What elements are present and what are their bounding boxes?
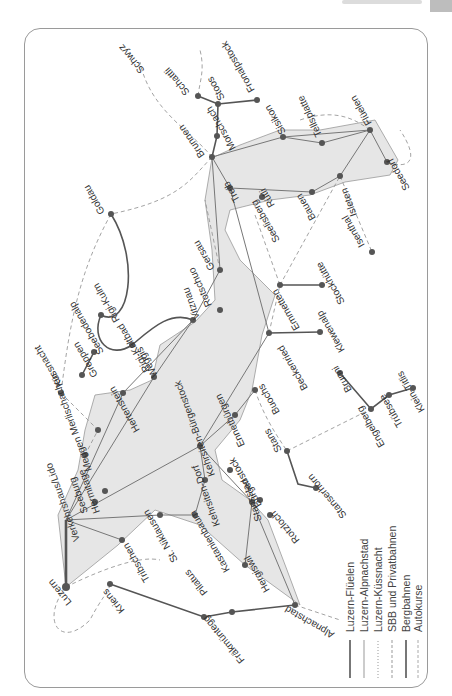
label-fraekmuentegg: Fräkmüntegg [200, 614, 246, 666]
label-flueelen: Flüelen [348, 94, 374, 128]
label-morschach: Morschach [204, 105, 238, 153]
label-schattli: Schattli [162, 66, 192, 98]
lake-lucerne-transport-map: Luzern Kriens Fräkmüntegg Pilatus Alpnac… [0, 0, 452, 696]
map-legend: Luzern-Flüelen Luzern-Alpnachstad Luzern… [344, 526, 424, 678]
legend-label-autokurse: Autokurse [412, 585, 424, 632]
legend-label-bergbahnen: Bergbahnen [400, 575, 412, 632]
label-brunni: Brunni [330, 364, 354, 395]
label-sisikon: Sisikon [262, 103, 288, 136]
label-rigi-kulm: Rigi-Kulm [91, 281, 122, 324]
label-stockhuette: Stockhütte [313, 260, 346, 307]
label-schwyz: Schwyz [116, 42, 147, 75]
label-isleten: Isleten [338, 187, 358, 218]
label-stanserhorn: Stanserhorn [305, 472, 348, 521]
legend-label-luzern-flueelen: Luzern-Flüelen [344, 562, 356, 632]
label-pilatus: Pilatus [182, 568, 210, 598]
label-alpnachstad: Alpnachstad [283, 604, 336, 641]
label-brunnen: Brunnen [176, 123, 207, 160]
label-beckenried: Beckenried [275, 344, 310, 393]
label-buochs: Buochs [256, 382, 282, 416]
label-stoos: Stoos [204, 75, 226, 103]
label-bauen: Bauen [294, 192, 318, 223]
label-goldau: Goldau [81, 183, 107, 216]
label-kriens: Kriens [100, 587, 127, 616]
label-fronalpstock: Fronalpstock [218, 39, 257, 95]
legend-label-luzern-alpnachstad: Luzern-Alpnachstad [358, 538, 370, 632]
label-isenthal: Isenthal [340, 214, 367, 250]
legend-label-luzern-kuessnacht: Luzern-Küssnacht [372, 547, 384, 632]
legend-label-sbb: SBB und Privatbahnen [386, 526, 398, 632]
label-truebsee: Trübsee [377, 392, 405, 429]
